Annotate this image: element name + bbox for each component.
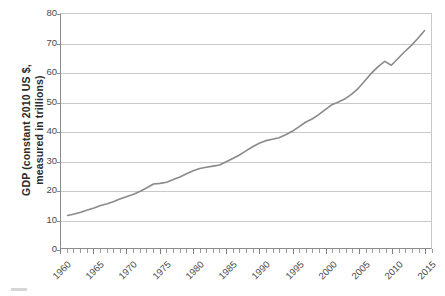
x-axis-tick-label: 1980	[170, 259, 206, 295]
gdp-line-chart: GDP (constant 2010 US $, measured in tri…	[0, 0, 445, 296]
x-axis-tick-label: 1985	[203, 259, 239, 295]
x-axis-tick-label: 2015	[402, 259, 438, 295]
x-axis-tick-label: 1995	[269, 259, 305, 295]
x-axis-tick-label: 1965	[70, 259, 106, 295]
x-axis-tick-labels: 1960196519701975198019851990199520002005…	[0, 0, 445, 296]
x-axis-tick-label: 2000	[303, 259, 339, 295]
x-axis-tick-label: 1960	[37, 259, 73, 295]
x-axis-tick-label: 1990	[236, 259, 272, 295]
x-axis-tick-label: 1970	[103, 259, 139, 295]
x-axis-tick-label: 1975	[136, 259, 172, 295]
stray-mark-icon	[11, 288, 27, 291]
x-axis-tick-label: 2010	[369, 259, 405, 295]
x-axis-tick-label: 2005	[336, 259, 372, 295]
